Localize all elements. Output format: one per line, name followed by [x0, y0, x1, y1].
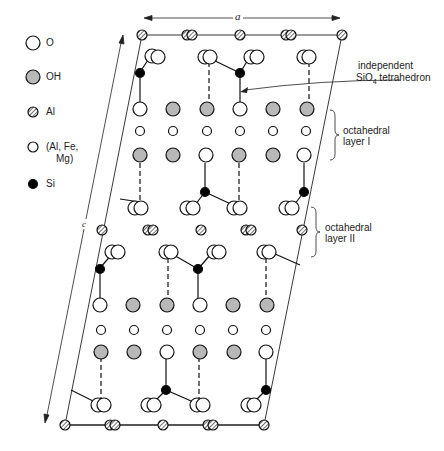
octahedral-layer-2-brace: [311, 207, 320, 257]
legend-symbols: [26, 36, 40, 189]
legend-si-icon: [29, 180, 38, 189]
c-axis-arrow: [44, 35, 124, 423]
tetrahedron-label-line2: SiO4 tetrahedron: [356, 72, 431, 88]
legend-label-octahedral-cation-1: (Al, Fe,: [46, 141, 78, 153]
atoms: [60, 30, 347, 430]
legend-al-icon: [28, 107, 38, 117]
octahedral-layer-1-brace: [330, 110, 339, 160]
legend-label-si: Si: [46, 178, 55, 190]
octahedral-layer-2-line2: layer II: [325, 233, 355, 245]
legend-o-icon: [26, 36, 40, 50]
legend-label-o: O: [46, 37, 54, 49]
legend-octahedral-cation-icon: [28, 142, 38, 152]
c-axis-label: c: [80, 219, 88, 229]
legend-oh-icon: [26, 70, 40, 84]
legend-label-oh: OH: [46, 71, 61, 83]
legend-label-al: Al: [46, 106, 55, 118]
tetrahedron-label-line1: independent: [358, 60, 413, 72]
tetrahedron-word: tetrahedron: [377, 72, 431, 83]
tetrahedron-formula: SiO: [356, 72, 373, 83]
legend-label-octahedral-cation-2: Mg): [56, 153, 73, 165]
octahedral-layer-1-line2: layer I: [343, 136, 370, 148]
a-axis-label: a: [233, 10, 243, 22]
